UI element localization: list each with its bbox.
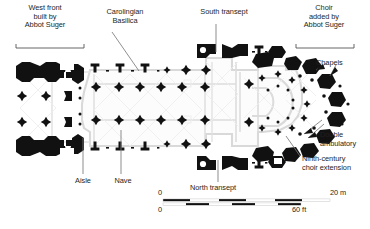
label-ninth-century-choir-extension: Ninth-century choir extension bbox=[302, 155, 368, 172]
north-transept bbox=[197, 156, 286, 170]
scale-metric-end: 20 m bbox=[330, 189, 364, 198]
label-south-transept: South transept bbox=[188, 8, 260, 17]
south-transept bbox=[197, 44, 286, 58]
label-aisle: Aisle bbox=[68, 177, 98, 186]
label-chapels: Chapels bbox=[316, 59, 366, 68]
label-double-ambulatory: Double ambulatory bbox=[320, 131, 368, 148]
label-carolingian-basilica: Carolingian Basilica bbox=[88, 8, 162, 25]
label-west-front: West front built by Abbot Suger bbox=[8, 4, 82, 30]
west-front-block bbox=[16, 62, 84, 156]
plan-figure: West front built by Abbot Suger Caroling… bbox=[0, 0, 370, 229]
scale-imperial-end: 60 ft bbox=[292, 206, 324, 215]
scale-imperial-start: 0 bbox=[158, 206, 168, 215]
floor-plan-drawing bbox=[0, 0, 370, 229]
scale-metric-start: 0 bbox=[158, 189, 168, 198]
label-north-transept: North transept bbox=[180, 184, 246, 193]
label-nave: Nave bbox=[108, 177, 138, 186]
label-choir: Choir added by Abbot Suger bbox=[284, 4, 364, 30]
